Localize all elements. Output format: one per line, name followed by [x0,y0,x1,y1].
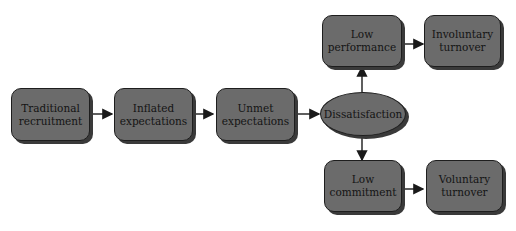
node-label: commitment [330,186,397,198]
node-label: Involuntary [432,28,493,40]
node-involuntary-turnover: Involuntaryturnover [424,15,501,67]
node-label: Voluntary [439,173,490,185]
node-dissatisfaction: Dissatisfaction [320,92,406,136]
node-label: Unmet [237,102,273,114]
node-label: expectations [222,115,289,127]
node-unmet-expectations: Unmetexpectations [216,88,295,141]
node-inflated-expectations: Inflatedexpectations [114,88,193,141]
node-voluntary-turnover: Voluntaryturnover [426,160,503,212]
node-label: expectations [120,115,187,127]
node-label: performance [328,41,396,53]
node-label: Low [352,173,374,185]
node-label: Inflated [133,102,174,114]
node-low-commitment: Lowcommitment [324,160,402,212]
node-label: turnover [439,41,485,53]
node-label: recruitment [19,115,83,127]
node-low-performance: Lowperformance [322,15,402,67]
node-label: turnover [441,186,487,198]
node-label: Traditional [21,102,80,114]
node-traditional-recruitment: Traditionalrecruitment [11,88,90,141]
node-label: Low [351,28,373,40]
node-label: Dissatisfaction [324,108,402,121]
